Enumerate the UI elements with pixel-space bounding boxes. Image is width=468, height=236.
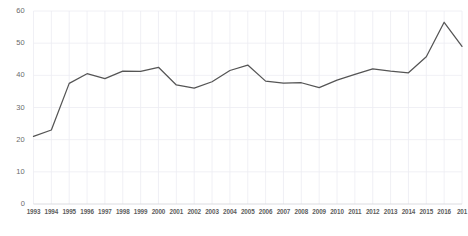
line-chart: 0102030405060 19931994199519961997199819… [0,0,468,236]
chart-plot-area [0,0,468,236]
